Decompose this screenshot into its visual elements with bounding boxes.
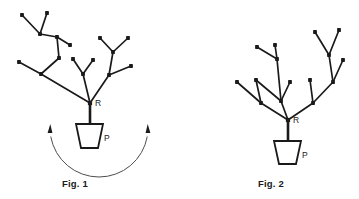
bud-node: [129, 64, 133, 68]
branch-segment: [313, 82, 333, 103]
branch-segment: [257, 47, 277, 59]
bud-node: [55, 35, 59, 39]
plant-pot: [76, 124, 103, 148]
branch-segment: [41, 74, 90, 103]
bud-node: [17, 60, 21, 64]
bud-node: [111, 50, 115, 54]
bud-node: [39, 72, 43, 76]
bud-node: [107, 73, 111, 77]
branch-group: [237, 30, 343, 120]
bud-node: [20, 13, 24, 17]
bud-node: [331, 80, 335, 84]
branch-segment: [261, 103, 288, 120]
pot-label-fig1: P: [104, 133, 110, 143]
branch-segment: [333, 60, 343, 82]
bud-node: [81, 72, 85, 76]
node-group: [235, 28, 345, 105]
bud-node: [275, 57, 279, 61]
branch-segment: [57, 37, 70, 45]
bud-node: [337, 28, 341, 32]
figure-2-caption: Fig. 2: [258, 178, 284, 189]
bud-node: [71, 57, 75, 61]
rotation-arrowhead: [48, 124, 53, 133]
bud-node: [327, 53, 331, 57]
figure-1-caption: Fig. 1: [62, 178, 88, 189]
plant-diagram-fig2: RP: [235, 28, 345, 164]
branch-segment: [57, 37, 59, 58]
figure-canvas: RPRP: [0, 0, 359, 199]
root-label-fig2: R: [293, 115, 299, 125]
branch-segment: [329, 55, 333, 82]
bud-node: [341, 58, 345, 62]
bud-node: [126, 36, 130, 40]
branch-segment: [83, 60, 93, 74]
bud-node: [273, 43, 277, 47]
bud-node: [279, 99, 283, 103]
bud-node: [288, 80, 292, 84]
branch-segment: [109, 52, 113, 75]
bud-node: [91, 58, 95, 62]
branch-segment: [19, 62, 41, 74]
pot-label-fig2: P: [302, 150, 308, 160]
bud-node: [235, 80, 239, 84]
bud-node: [57, 56, 61, 60]
branch-segment: [40, 34, 57, 37]
rotation-arrowhead: [146, 124, 151, 133]
branch-segment: [277, 59, 281, 101]
branch-segment: [113, 38, 128, 52]
branch-segment: [315, 32, 329, 55]
root-node: [88, 101, 92, 105]
bud-node: [68, 43, 72, 47]
root-node: [286, 118, 290, 122]
branch-segment: [40, 13, 47, 34]
bud-node: [38, 32, 42, 36]
node-group: [17, 11, 133, 77]
bud-node: [255, 45, 259, 49]
branch-segment: [22, 15, 40, 34]
branch-segment: [41, 58, 59, 74]
bud-node: [313, 30, 317, 34]
root-label-fig1: R: [95, 98, 101, 108]
plant-diagram-fig1: RP: [17, 11, 150, 177]
branch-segment: [100, 38, 113, 52]
branch-group: [19, 13, 131, 103]
branch-segment: [109, 66, 131, 75]
branch-segment: [73, 59, 83, 74]
bud-node: [259, 101, 263, 105]
branch-segment: [329, 30, 339, 55]
bud-node: [308, 78, 312, 82]
bud-node: [45, 11, 49, 15]
branch-segment: [281, 82, 290, 101]
branch-segment: [288, 103, 313, 120]
branch-segment: [275, 45, 277, 59]
bud-node: [254, 78, 258, 82]
bud-node: [311, 101, 315, 105]
branch-segment: [310, 80, 313, 103]
bud-node: [98, 36, 102, 40]
plant-pot: [274, 141, 301, 164]
